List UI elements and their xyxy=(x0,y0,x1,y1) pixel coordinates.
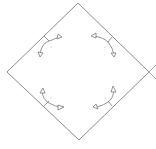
right-extension-line xyxy=(149,65,156,72)
right-extension-line-lower xyxy=(149,72,156,79)
diamond-outline xyxy=(7,3,149,140)
diagram-canvas xyxy=(0,0,156,149)
rotation-arrow-icon-upper-left xyxy=(38,34,62,57)
rotation-arrow-icon-lower-right xyxy=(93,86,116,109)
